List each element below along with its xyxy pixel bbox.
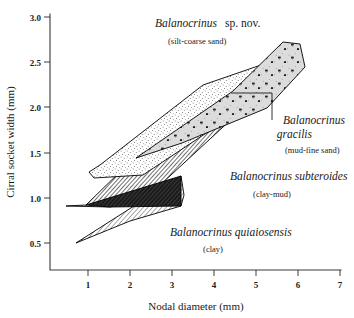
x-tick-label: 7 <box>338 280 343 290</box>
y-tick-label: 0.5 <box>30 239 42 249</box>
x-tick-label: 6 <box>296 280 301 290</box>
label-quiaiosensis-facies: (clay) <box>203 244 223 254</box>
x-tick-label: 5 <box>254 280 259 290</box>
y-tick-label: 2.5 <box>30 58 42 68</box>
label-sp-nov-facies: (silt-coarse sand) <box>168 36 226 46</box>
polygon-sp-nov[interactable] <box>136 42 305 158</box>
x-tick-label: 1 <box>86 280 91 290</box>
x-axis-ticks: 1 2 3 4 5 6 7 <box>86 270 343 290</box>
label-gracilis-genus: Balanocrinus <box>283 114 345 126</box>
label-quiaiosensis-name: Balanocrinus quiaiosensis <box>170 226 292 239</box>
data-polygons <box>66 42 305 243</box>
y-axis-ticks: 3.0 2.5 2.0 1.5 1.0 0.5 <box>30 13 50 249</box>
y-tick-label: 2.0 <box>30 103 42 113</box>
y-tick-label: 1.5 <box>30 149 42 159</box>
y-tick-label: 1.0 <box>30 194 42 204</box>
x-tick-label: 2 <box>128 280 133 290</box>
x-tick-label: 4 <box>212 280 217 290</box>
figure-container: 3.0 2.5 2.0 1.5 1.0 0.5 1 2 3 4 5 <box>0 0 354 318</box>
label-gracilis-facies: (mud-fine sand) <box>285 145 340 155</box>
label-gracilis-epithet: gracilis <box>277 128 313 141</box>
x-axis-title: Nodal diameter (mm) <box>148 300 244 313</box>
label-subteroides-facies: (clay-mud) <box>253 189 291 199</box>
y-tick-label: 3.0 <box>30 13 42 23</box>
x-tick-label: 3 <box>170 280 175 290</box>
label-sp-nov-name: Balanocrinussp. nov. <box>155 17 260 30</box>
label-subteroides-name: Balanocrinus subteroides <box>230 170 348 182</box>
scatter-plot: 3.0 2.5 2.0 1.5 1.0 0.5 1 2 3 4 5 <box>0 0 354 318</box>
y-axis-title: Cirral socket width (mm) <box>4 86 17 198</box>
